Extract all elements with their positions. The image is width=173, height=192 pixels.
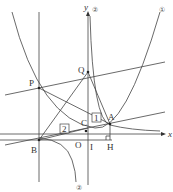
point-H-label: H [107, 142, 114, 152]
box-2-label: 2 [62, 124, 67, 134]
hyperbola-2-left [39, 138, 76, 182]
curve-2-label-bottom: ② [76, 184, 82, 192]
y-axis-label: y [83, 2, 88, 12]
diagram: x y P Q A B C O I H ② ① ② 1 2 [0, 0, 173, 192]
point-O-label: O [75, 140, 82, 150]
point-I-label: I [90, 142, 93, 152]
point-B-label: B [31, 145, 37, 155]
curve-2-label-top: ② [92, 6, 98, 14]
point-P-label: P [29, 78, 34, 88]
diagram-canvas: x y P Q A B C O I H ② ① ② 1 2 [0, 0, 173, 192]
point-A-label: A [108, 112, 115, 122]
point-C-label: C [81, 118, 87, 128]
x-axis-label: x [167, 129, 172, 139]
point-Q-label: Q [78, 65, 85, 75]
box-1-label: 1 [94, 113, 99, 123]
parabola-1 [12, 12, 160, 128]
x-axis-arrow [161, 132, 166, 136]
right-angle-mark [106, 136, 110, 140]
curve-1-label: ① [159, 6, 165, 14]
